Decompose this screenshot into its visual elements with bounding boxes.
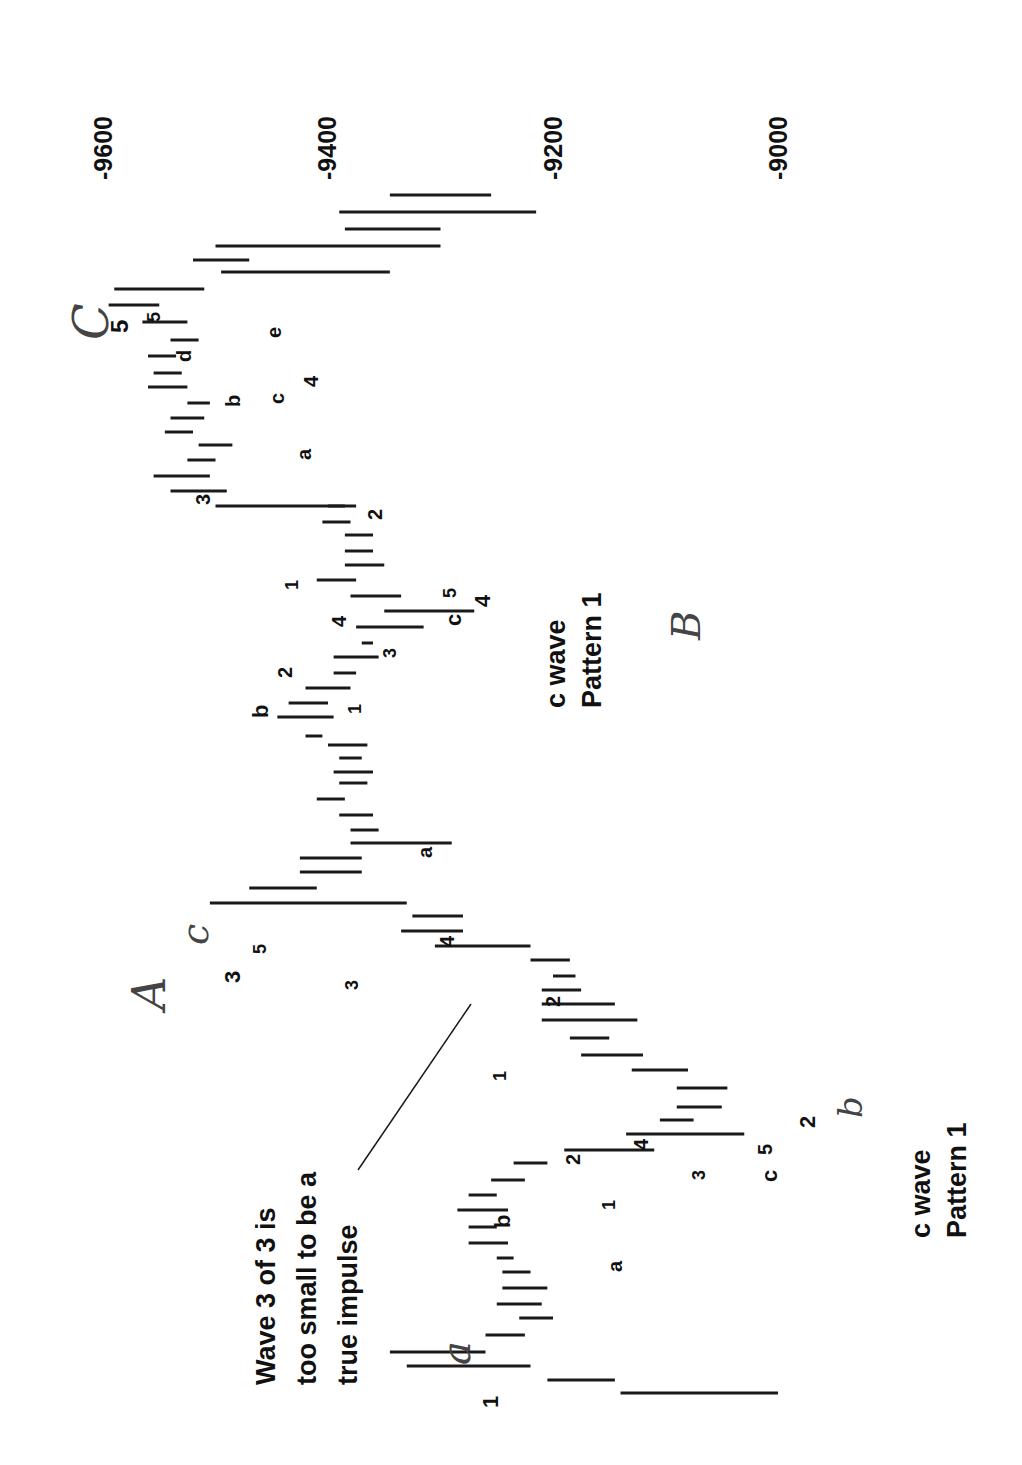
handwritten-A: A (122, 977, 176, 1014)
wave-label: 2 (795, 1116, 820, 1128)
wave-label: c (757, 1170, 782, 1182)
axis-tick-label: -9000 (764, 116, 792, 180)
cwave-upper-line-1: c wave (541, 619, 571, 708)
handwritten-B: B (663, 611, 709, 641)
wave-label: 5 (250, 944, 270, 954)
cwave-lower-line-1: c wave (906, 1149, 936, 1238)
handwritten-C: C (63, 303, 119, 340)
wave-label: 3 (342, 980, 362, 990)
cwave-note-upper: c wave Pattern 1 (541, 592, 607, 708)
cwave-lower-line-2: Pattern 1 (942, 1122, 972, 1238)
callout-note: Wave 3 of 3 is too small to be a true im… (251, 1171, 363, 1385)
cwave-note-lower: c wave Pattern 1 (906, 1122, 972, 1238)
wave-label: 2 (364, 509, 386, 520)
cwave-upper-line-2: Pattern 1 (577, 592, 607, 708)
wave-label: 5 (144, 312, 164, 322)
handwritten-b: b (830, 1096, 870, 1118)
wave-label: 3 (192, 494, 214, 505)
wave-label: 5 (440, 588, 460, 598)
wave-label: 4 (300, 375, 322, 387)
price-bars (109, 195, 778, 1393)
wave-label: a (293, 448, 315, 460)
handwritten-c-small: c (173, 924, 217, 945)
wave-label: c (266, 393, 288, 404)
axis-tick-label: -9600 (89, 116, 117, 180)
wave-label: 3 (220, 971, 245, 983)
callout-line-2: too small to be a (292, 1171, 322, 1385)
wave-labels: 1ba1234c52123435ab1234c54123abc4de55 (106, 312, 820, 1408)
wave-label: 1 (478, 1396, 503, 1408)
wave-label: 4 (328, 615, 350, 627)
handwritten-a: a (433, 1341, 479, 1365)
wave-label: 4 (436, 935, 458, 947)
wave-label: b (222, 395, 244, 407)
wave-label: 3 (380, 648, 400, 658)
callout-line-3: true impulse (333, 1224, 363, 1385)
axis-tick-label: -9200 (539, 116, 567, 180)
wave-label: b (248, 705, 273, 718)
wave-label: a (604, 1260, 626, 1272)
wave-label: 2 (274, 667, 296, 678)
axis-tick-label: -9400 (313, 116, 341, 180)
wave-label: 1 (345, 704, 365, 714)
wave-label: 2 (542, 996, 564, 1007)
wave-label: 5 (754, 1144, 776, 1155)
wave-label: 4 (630, 1138, 652, 1150)
wave-label: 1 (490, 1071, 510, 1081)
wave-label: d (173, 350, 195, 362)
wave-label: 3 (689, 1170, 709, 1180)
price-axis: -9600-9400-9200-9000 (89, 116, 792, 180)
wave-label: 2 (562, 1154, 584, 1165)
wave-label: 1 (282, 580, 302, 590)
wave-label: c (441, 614, 466, 626)
wave-label: a (414, 846, 436, 858)
wave-label: 1 (599, 1200, 619, 1210)
callout-pointer-line (358, 1004, 471, 1170)
elliott-wave-chart: -9600-9400-9200-9000 1ba1234c52123435ab1… (0, 0, 1022, 1465)
wave-label: e (263, 327, 285, 338)
wave-label: b (490, 1215, 515, 1228)
wave-label: 4 (470, 594, 495, 607)
callout-line-1: Wave 3 of 3 is (251, 1207, 281, 1385)
